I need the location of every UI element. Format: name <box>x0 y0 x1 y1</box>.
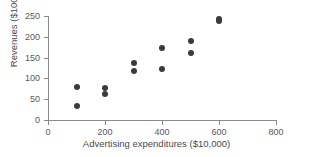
data-point <box>159 66 165 72</box>
data-point <box>74 84 80 90</box>
y-tick <box>44 16 49 17</box>
y-tick-label: 100 <box>14 73 40 83</box>
x-tick <box>162 120 163 125</box>
x-axis-title: Advertising expenditures ($10,000) <box>0 138 313 149</box>
plot-area <box>48 16 276 120</box>
x-tick-label: 0 <box>33 127 63 137</box>
data-point <box>74 103 80 109</box>
y-tick <box>44 58 49 59</box>
x-tick <box>276 120 277 125</box>
y-tick-label: 0 <box>14 115 40 125</box>
x-tick <box>219 120 220 125</box>
y-tick-label: 250 <box>14 11 40 21</box>
data-point <box>131 60 137 66</box>
data-point <box>188 38 194 44</box>
y-tick-label: 150 <box>14 53 40 63</box>
x-tick-label: 600 <box>204 127 234 137</box>
data-point <box>159 45 165 51</box>
y-axis-line <box>48 16 49 121</box>
data-point <box>102 85 108 91</box>
x-tick-label: 400 <box>147 127 177 137</box>
x-tick-label: 200 <box>90 127 120 137</box>
y-tick <box>44 37 49 38</box>
y-tick <box>44 78 49 79</box>
data-point <box>188 50 194 56</box>
x-tick <box>105 120 106 125</box>
data-point <box>131 68 137 74</box>
y-tick-label: 50 <box>14 94 40 104</box>
y-tick <box>44 99 49 100</box>
data-point <box>102 91 108 97</box>
data-point <box>216 18 222 24</box>
x-tick <box>48 120 49 125</box>
y-tick-label: 200 <box>14 32 40 42</box>
scatter-plot-figure: Revenues ($100,000) 05010015020025002004… <box>0 0 313 157</box>
x-tick-label: 800 <box>261 127 291 137</box>
